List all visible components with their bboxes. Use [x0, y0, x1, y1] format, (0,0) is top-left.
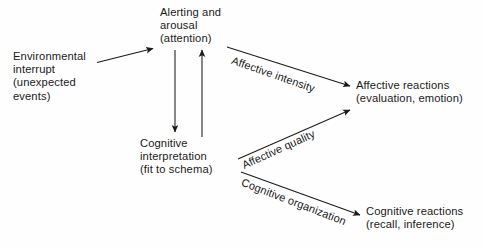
node-affective-reactions: Affective reactions (evaluation, emotion… — [356, 79, 463, 105]
node-cognitive-interpretation: Cognitive interpretation (fit to schema) — [140, 137, 213, 177]
edge-interrupt-to-alerting — [97, 49, 153, 63]
node-environmental-interrupt: Environmental interrupt (unexpected even… — [13, 50, 86, 103]
diagram-canvas: Environmental interrupt (unexpected even… — [0, 0, 482, 247]
node-cognitive-reactions: Cognitive reactions (recall, inference) — [366, 205, 463, 231]
node-alerting-arousal: Alerting and arousal (attention) — [160, 6, 221, 46]
